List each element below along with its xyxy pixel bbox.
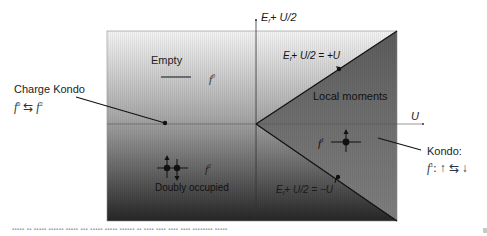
exchange-arrows-icon: ⇆: [23, 100, 33, 114]
figure-caption: ▪▪▪▪▪ ▪▪ ▪▪▪▪▪ ▪▪▪▪▪▪ ▪▪▪▪▪ ▪▪▪ ▪▪▪▪▪ ▪▪…: [12, 226, 227, 232]
lower-boundary-marker: [336, 175, 340, 179]
y-axis-label-rest: + U/2: [270, 11, 297, 23]
empty-state-label: f0: [209, 73, 215, 85]
local-moments-state-label: f1: [318, 137, 324, 149]
lower-boundary-rest: + U/2 = −U: [284, 184, 333, 195]
charge-kondo-right-sup: 2: [40, 101, 43, 107]
empty-state-sup: 0: [212, 73, 215, 79]
doubly-occupied-state-label: f2: [205, 163, 211, 175]
doubly-occupied-label: Doubly occupied: [155, 183, 229, 193]
doubly-occupied-state-sup: 2: [208, 163, 211, 169]
local-moments-state-sup: 1: [321, 137, 324, 143]
x-axis-label: U: [411, 111, 419, 122]
upper-boundary-e: E: [283, 50, 290, 61]
lower-boundary-e: E: [276, 184, 283, 195]
local-moments-label: Local moments: [313, 91, 388, 102]
charge-kondo-formula: f0 ⇆ f2: [14, 101, 43, 113]
upper-boundary-rest: + U/2 = +U: [291, 50, 340, 61]
corner-mark: [483, 228, 487, 233]
kondo-formula: f1: ↑ ⇆ ↓: [427, 162, 468, 174]
kondo-spin-flip: : ↑ ⇆ ↓: [433, 161, 467, 175]
upper-boundary-marker: [337, 67, 341, 71]
charge-kondo-left-sup: 0: [17, 101, 20, 107]
kondo-title: Kondo:: [427, 146, 462, 157]
charge-kondo-title: Charge Kondo: [14, 84, 85, 95]
empty-region-label: Empty: [151, 55, 182, 66]
y-axis-label: Ef+ U/2: [261, 12, 297, 24]
lower-boundary-label: Ef+ U/2 = −U: [276, 185, 333, 196]
upper-boundary-label: Ef+ U/2 = +U: [283, 51, 340, 62]
